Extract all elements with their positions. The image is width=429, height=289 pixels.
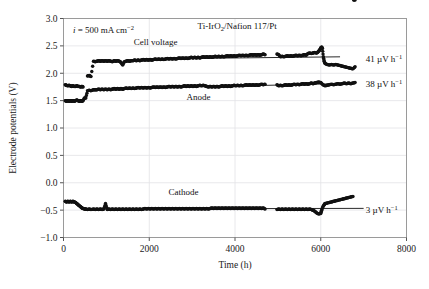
y-tick-label: 2.0 — [46, 69, 58, 79]
series-label-cell-voltage: Cell voltage — [134, 37, 178, 47]
chart-figure: 02000400060008000−1.0−0.50.00.51.01.52.0… — [0, 0, 429, 289]
y-tick-label: 2.5 — [46, 41, 58, 51]
chart-svg: 02000400060008000−1.0−0.50.00.51.01.52.0… — [0, 0, 429, 289]
rate-label-cell-voltage: 41 µV h−1 — [366, 53, 402, 64]
series-label-anode: Anode — [187, 92, 211, 102]
series-label-cathode: Cathode — [169, 187, 199, 197]
x-tick-label: 8000 — [397, 244, 416, 254]
y-tick-label: 0.5 — [46, 151, 58, 161]
x-axis-label: Time (h) — [218, 260, 251, 271]
chart-title: Ti-IrO2/Nafion 117/Pt — [197, 21, 277, 32]
y-tick-label: −0.5 — [40, 206, 57, 216]
rate-label-anode: 38 µV h−1 — [366, 78, 402, 89]
y-tick-label: 1.0 — [46, 123, 58, 133]
axis-tick-labels: 02000400060008000−1.0−0.50.00.51.01.52.0… — [40, 14, 416, 254]
rate-label-cathode: 3 µV h−1 — [366, 204, 398, 215]
y-tick-label: 3.0 — [46, 14, 58, 24]
y-tick-label: −1.0 — [40, 233, 57, 243]
x-tick-label: 6000 — [311, 244, 330, 254]
y-axis-label: Electrode potentials (V) — [8, 82, 19, 173]
current-density-annotation: i = 500 mA cm−2 — [73, 24, 134, 35]
x-tick-label: 4000 — [226, 244, 245, 254]
grid-layer — [64, 19, 407, 238]
x-tick-label: 0 — [61, 244, 66, 254]
x-tick-label: 2000 — [140, 244, 159, 254]
trendlines — [100, 57, 364, 209]
y-tick-label: 1.5 — [46, 96, 58, 106]
y-tick-label: 0.0 — [46, 178, 58, 188]
